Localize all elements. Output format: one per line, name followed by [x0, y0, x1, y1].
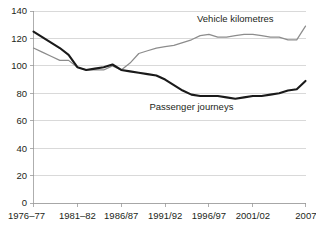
y-tick-label: 140	[11, 5, 27, 16]
annotation-passenger-journeys: Passenger journeys	[149, 101, 233, 112]
chart-canvas: 020406080100120140 1976–771981–821986/87…	[0, 0, 316, 230]
x-tick-label: 1981–82	[59, 210, 96, 221]
y-tick-label: 100	[11, 60, 27, 71]
x-tick-label: 1996/97	[192, 210, 226, 221]
y-tick-label: 40	[16, 143, 27, 154]
y-tick-label: 0	[22, 197, 27, 208]
x-axis	[34, 203, 306, 207]
x-tick-label: 2007/08	[295, 210, 316, 221]
x-tick-label: 1991/92	[148, 210, 182, 221]
line-chart: 020406080100120140 1976–771981–821986/87…	[0, 0, 316, 230]
x-tick-label: 1986/87	[104, 210, 138, 221]
annotation-vehicle-kilometres: Vehicle kilometres	[197, 13, 274, 24]
series-lines	[34, 26, 306, 99]
y-tick-label: 80	[16, 88, 27, 99]
y-tick-label: 20	[16, 170, 27, 181]
x-tick-label: 2001/02	[236, 210, 270, 221]
y-axis	[30, 11, 34, 203]
x-tick-labels: 1976–771981–821986/871991/921996/972001/…	[8, 210, 316, 221]
y-tick-label: 60	[16, 115, 27, 126]
y-tick-labels: 020406080100120140	[11, 5, 27, 208]
x-tick-label: 1976–77	[8, 210, 45, 221]
y-tick-label: 120	[11, 33, 27, 44]
